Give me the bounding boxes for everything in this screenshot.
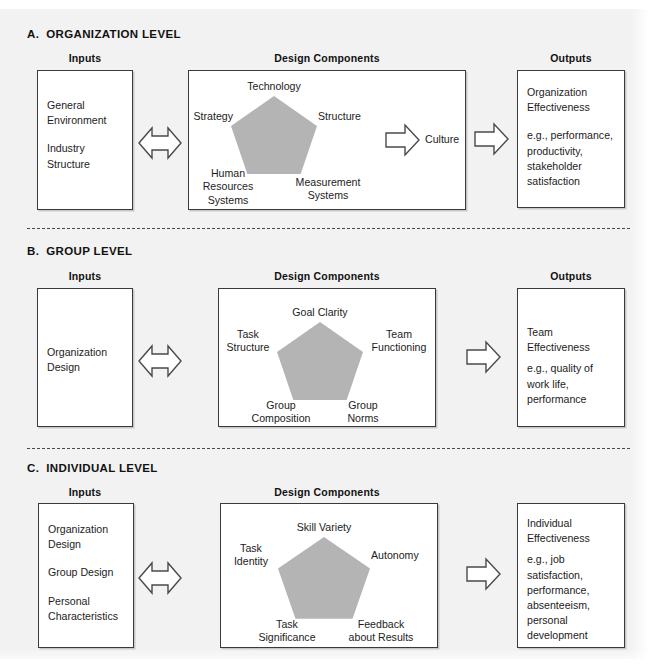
pentagon-node-top-c: Skill Variety — [276, 521, 372, 534]
outputs-item-b-0: Team Effectiveness — [527, 325, 618, 355]
pentagon-node-left-a: Strategy — [185, 110, 233, 123]
section-title-b: B. GROUP LEVEL — [27, 245, 132, 257]
right-arrow-outputs-b — [466, 340, 502, 374]
inputs-box-c: Organization Design Group Design Persona… — [38, 503, 134, 648]
page-fade-right — [630, 0, 652, 667]
pentagon-node-top-a: Technology — [226, 80, 322, 93]
pentagon-shape-c — [278, 537, 370, 623]
outputs-box-c: Individual Effectiveness e.g., job satis… — [517, 503, 625, 648]
pentagon-node-bottom-right-c: Feedback about Results — [333, 618, 429, 645]
inputs-item-c-0: Organization Design — [48, 522, 127, 552]
inputs-box-b: Organization Design — [37, 288, 133, 427]
inputs-item-c-1: Group Design — [48, 565, 127, 580]
outputs-item-a-0: Organization Effectiveness — [527, 85, 618, 115]
column-header-design-c: Design Components — [218, 486, 436, 498]
pentagon-node-left-c: Task Identity — [221, 542, 281, 569]
inputs-item-a-1: Industry Structure — [47, 141, 126, 171]
column-header-design-a: Design Components — [218, 52, 436, 64]
outputs-item-c-1: e.g., job satisfaction, performance, abs… — [527, 552, 618, 643]
inputs-item-c-2: Personal Characteristics — [48, 594, 127, 624]
section-title-c: C. INDIVIDUAL LEVEL — [27, 462, 158, 474]
right-arrow-outputs-a — [474, 122, 510, 156]
outputs-item-a-1: e.g., performance, productivity, stakeho… — [527, 128, 618, 189]
column-header-inputs-a: Inputs — [37, 52, 133, 64]
pentagon-shape-b — [277, 322, 363, 404]
column-header-outputs-b: Outputs — [517, 270, 625, 282]
design-components-box-a: Technology Strategy Structure Human Reso… — [188, 70, 466, 210]
pentagon-node-right-c: Autonomy — [371, 549, 441, 562]
design-components-box-c: Skill Variety Task Identity Autonomy Tas… — [220, 503, 438, 648]
inputs-item-b-0: Organization Design — [47, 345, 126, 375]
culture-label-a: Culture — [425, 133, 459, 145]
section-divider-1 — [27, 228, 630, 229]
design-components-box-b: Goal Clarity Task Structure Team Functio… — [218, 288, 436, 427]
inputs-box-a: General Environment Industry Structure — [37, 70, 133, 210]
pentagon-node-top-b: Goal Clarity — [272, 306, 368, 319]
pentagon-node-bottom-left-a: Human Resources Systems — [192, 167, 264, 207]
section-title-a: A. ORGANIZATION LEVEL — [27, 28, 181, 40]
inputs-item-a-0: General Environment — [47, 98, 126, 128]
column-header-inputs-c: Inputs — [37, 486, 133, 498]
double-headed-arrow-c — [137, 557, 183, 599]
pentagon-node-bottom-left-b: Group Composition — [239, 399, 323, 426]
column-header-inputs-b: Inputs — [37, 270, 133, 282]
outputs-item-c-0: Individual Effectiveness — [527, 516, 618, 546]
section-divider-2 — [27, 448, 630, 449]
pentagon-node-right-b: Team Functioning — [363, 328, 435, 355]
outputs-box-b: Team Effectiveness e.g., quality of work… — [517, 288, 625, 427]
page-fade-bottom — [0, 649, 652, 667]
outputs-box-a: Organization Effectiveness e.g., perform… — [517, 70, 625, 208]
pentagon-node-bottom-left-c: Task Significance — [246, 618, 328, 645]
double-headed-arrow-b — [137, 340, 183, 382]
right-arrow-culture-a — [385, 123, 421, 157]
pentagon-node-bottom-right-a: Measurement Systems — [282, 176, 374, 203]
pentagon-node-right-a: Structure — [318, 110, 388, 123]
pentagon-shape-a — [231, 96, 317, 178]
pentagon-node-bottom-right-b: Group Norms — [331, 399, 395, 426]
column-header-design-b: Design Components — [218, 270, 436, 282]
pentagon-node-left-b: Task Structure — [217, 328, 279, 355]
outputs-item-b-1: e.g., quality of work life, performance — [527, 361, 618, 407]
double-headed-arrow-a — [137, 122, 183, 164]
right-arrow-outputs-c — [466, 557, 502, 591]
column-header-outputs-a: Outputs — [517, 52, 625, 64]
